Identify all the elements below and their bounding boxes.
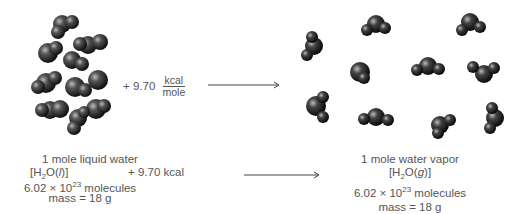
unit-denominator: mole	[163, 87, 186, 98]
liquid-water-molecules-illustration	[30, 10, 120, 140]
energy-per-mole: + 9.70 kcal mole	[123, 75, 185, 98]
vapor-mass: mass = 18 g	[330, 200, 490, 214]
liquid-water-label: 1 mole liquid water	[10, 152, 170, 166]
vapor-formula: [H2O(g)]	[330, 165, 490, 184]
liquid-title: 1 mole liquid water	[10, 152, 170, 166]
vapor-molecules: 6.02 × 1023 molecules	[330, 183, 490, 200]
water-vapor-label: 1 mole water vapor [H2O(g)] 6.02 × 1023 …	[330, 152, 490, 214]
liquid-energy: + 9.70 kcal	[128, 165, 184, 179]
energy-value: + 9.70	[123, 80, 155, 92]
water-vapor-molecules-illustration	[290, 0, 521, 140]
unit-fraction: kcal mole	[163, 75, 186, 98]
reaction-arrow-bottom	[244, 170, 322, 180]
liquid-mass: mass = 18 g	[0, 191, 160, 205]
reaction-arrow-top	[208, 80, 282, 90]
vapor-title: 1 mole water vapor	[330, 152, 490, 166]
